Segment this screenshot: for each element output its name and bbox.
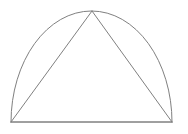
figure-background <box>0 0 188 134</box>
geometric-figure-canvas: Triangle inscribed in a semicircular arc <box>0 0 188 134</box>
